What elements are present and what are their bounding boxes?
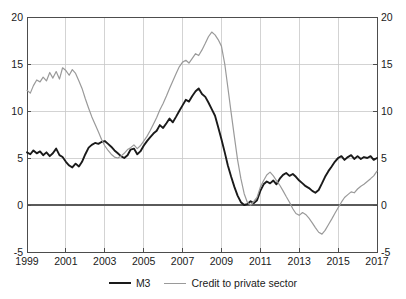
series-line-m3: [27, 88, 377, 205]
legend-item-m3: M3: [109, 277, 151, 289]
right-tick-label: 0: [381, 200, 387, 211]
year-tick-label: 2007: [171, 256, 194, 267]
year-tick-label: 2013: [288, 256, 311, 267]
plot-frame: [27, 17, 377, 252]
line-swatch-gray-icon: [164, 283, 186, 284]
grid-layer: [27, 17, 377, 252]
left-tick-label: 0: [0, 200, 23, 211]
year-tick-label: 2005: [132, 256, 155, 267]
chart-figure: -505101520 -505101520 199920012003200520…: [0, 0, 406, 299]
series-layer: [27, 32, 377, 234]
right-tick-label: 15: [381, 59, 393, 70]
year-tick-label: 2011: [249, 256, 272, 267]
left-tick-label: 10: [0, 106, 23, 117]
year-tick-label: 2017: [365, 256, 388, 267]
year-tick-label: 2001: [54, 256, 77, 267]
left-tick-label: 15: [0, 59, 23, 70]
left-tick-label: 20: [0, 12, 23, 23]
year-tick-label: 1999: [15, 256, 38, 267]
axis-ticks: [27, 17, 377, 252]
legend-label-m3: M3: [136, 277, 151, 289]
chart-legend: M3 Credit to private sector: [0, 277, 406, 289]
right-tick-label: 5: [381, 153, 387, 164]
legend-item-credit: Credit to private sector: [164, 277, 297, 289]
line-swatch-black-icon: [109, 282, 131, 284]
year-tick-label: 2003: [93, 256, 116, 267]
year-tick-label: 2009: [210, 256, 233, 267]
right-tick-label: 20: [381, 12, 393, 23]
right-tick-label: 10: [381, 106, 393, 117]
left-tick-label: 5: [0, 153, 23, 164]
series-line-credit: [27, 32, 377, 234]
year-tick-label: 2015: [326, 256, 349, 267]
legend-label-credit: Credit to private sector: [191, 277, 297, 289]
